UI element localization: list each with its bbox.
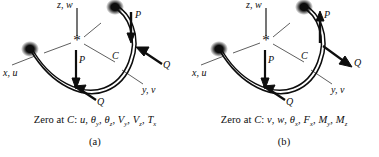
origin-asterisk: *	[73, 32, 81, 48]
beam-inner-edge	[31, 5, 136, 94]
curved-beam-figure: *	[0, 0, 379, 157]
midpoint-label-C: C	[112, 50, 119, 61]
midpoint-label-C: C	[301, 50, 308, 61]
x-axis-line-b	[201, 56, 224, 65]
z-axis-helper	[273, 23, 290, 37]
panel-a-drawing: *	[0, 0, 190, 115]
z-axis-helper	[84, 23, 101, 37]
panel-b-caption: Zero at C: v, w, θx, Fx, My, Mz	[189, 114, 379, 125]
x-axis-line-a	[233, 43, 260, 53]
load-label-Q-left: Q	[286, 96, 293, 107]
y-axis-line-a	[84, 44, 115, 62]
panel-b: *	[189, 0, 379, 157]
support-left	[21, 41, 39, 57]
load-label-Q-left: Q	[97, 96, 104, 107]
caption-quantity-list: u, θy, θz, Vy, Vz, Tx	[80, 114, 156, 125]
load-label-P-right: P	[324, 9, 330, 20]
beam-outer-edge	[31, 7, 132, 90]
load-label-P-left: P	[268, 54, 274, 65]
beam-inner-edge	[220, 5, 325, 94]
arrow-Q-left	[74, 85, 96, 100]
panel-a-sublabel: (a)	[0, 136, 190, 147]
curved-beam	[220, 5, 325, 94]
y-axis-label: y, v	[331, 84, 344, 95]
arrow-Q-right	[136, 47, 162, 64]
support-left	[210, 41, 228, 57]
panel-a-caption: Zero at C: u, θy, θz, Vy, Vz, Tx	[0, 114, 190, 125]
x-axis-label: x, u	[3, 67, 17, 78]
caption-quantity-list: v, w, θx, Fx, My, Mz	[267, 114, 347, 125]
load-label-P-right: P	[135, 9, 141, 20]
arrow-Q-left	[263, 85, 285, 100]
load-label-Q-right: Q	[163, 59, 170, 70]
arrow-Q-right	[323, 46, 352, 67]
z-axis-label: z, w	[246, 0, 262, 10]
x-axis-line-a	[44, 43, 71, 53]
load-label-P-left: P	[79, 54, 85, 65]
load-label-Q-right: Q	[354, 57, 361, 68]
x-axis-label: x, u	[192, 67, 206, 78]
panel-b-drawing: *	[189, 0, 379, 115]
beam-outer-edge	[220, 7, 321, 90]
panel-b-sublabel: (b)	[189, 136, 379, 147]
curved-beam	[31, 5, 136, 94]
origin-asterisk: *	[262, 32, 270, 48]
y-axis-line-a	[273, 44, 304, 62]
y-axis-label: y, v	[142, 84, 155, 95]
panel-a: *	[0, 0, 190, 157]
x-axis-line-b	[12, 56, 35, 65]
z-axis-label: z, w	[57, 0, 73, 10]
